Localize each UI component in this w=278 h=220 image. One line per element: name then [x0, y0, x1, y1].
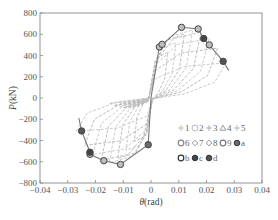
legend-label: c — [199, 153, 203, 163]
skeleton-line — [151, 27, 229, 98]
legend-label: 4 — [227, 123, 232, 133]
data-point-marker — [206, 42, 212, 48]
data-point-marker — [195, 26, 201, 32]
x-tick-label: 0 — [149, 185, 154, 195]
diamond-marker-icon — [206, 140, 212, 146]
circle-marker-icon — [178, 140, 184, 146]
y-axis-ticks: 8006004002000−200−400−600−800 — [18, 8, 43, 188]
legend-label: 3 — [213, 123, 218, 133]
y-tick-label: 400 — [24, 51, 38, 61]
data-point-marker — [78, 128, 84, 134]
filled-circle-marker-icon — [206, 155, 212, 161]
circle-marker-icon — [192, 125, 198, 131]
legend-label: d — [213, 153, 218, 163]
y-axis-title: P(kN) — [8, 86, 19, 111]
legend: 123456789abcd — [178, 123, 246, 163]
y-tick-label: −800 — [18, 178, 37, 188]
y-tick-label: 0 — [33, 93, 38, 103]
y-tick-label: −600 — [18, 157, 37, 167]
x-tick-label: −0.02 — [85, 185, 106, 195]
filled-circle-marker-icon — [234, 140, 240, 146]
legend-label: a — [241, 138, 245, 148]
legend-label: 6 — [185, 138, 190, 148]
legend-label: 5 — [241, 123, 246, 133]
filled-circle-marker-icon — [192, 155, 198, 161]
triangle-marker-icon — [220, 125, 226, 130]
data-point-marker — [159, 41, 165, 47]
data-point-marker — [178, 24, 184, 30]
plus-marker-icon — [234, 125, 240, 131]
data-point-marker — [220, 58, 226, 64]
legend-label: b — [185, 153, 190, 163]
diamond-marker-icon — [192, 140, 198, 146]
x-tick-label: −0.01 — [113, 185, 134, 195]
hysteresis-chart: −0.04−0.03−0.02−0.0100.010.020.030.04 80… — [0, 0, 278, 220]
x-tick-label: 0.01 — [171, 185, 187, 195]
y-tick-label: 600 — [24, 29, 38, 39]
x-axis-title: θ(rad) — [139, 197, 162, 208]
plus-marker-icon — [206, 125, 212, 131]
x-tick-label: 0.03 — [226, 185, 242, 195]
x-tick-label: −0.03 — [57, 185, 78, 195]
x-tick-label: 0.04 — [254, 185, 270, 195]
legend-label: 9 — [227, 138, 232, 148]
y-tick-label: 200 — [24, 72, 38, 82]
data-point-marker — [101, 157, 107, 163]
y-tick-label: −200 — [18, 114, 37, 124]
circle-marker-icon — [178, 155, 184, 161]
circle-marker-icon — [220, 140, 226, 146]
y-tick-label: −400 — [18, 136, 37, 146]
legend-label: 2 — [199, 123, 204, 133]
peak-markers — [78, 24, 226, 167]
legend-label: 8 — [213, 138, 218, 148]
plus-marker-icon — [178, 125, 184, 131]
y-axis-unit: (kN) — [8, 86, 19, 104]
data-point-marker — [201, 35, 207, 41]
legend-label: 1 — [185, 123, 190, 133]
data-point-marker — [117, 161, 123, 167]
skeleton-curve — [79, 27, 229, 164]
data-point-marker — [87, 149, 93, 155]
data-point-marker — [145, 142, 151, 148]
legend-label: 7 — [199, 138, 204, 148]
x-axis-unit: (rad) — [144, 197, 162, 208]
x-axis-ticks: −0.04−0.03−0.02−0.0100.010.020.030.04 — [30, 180, 271, 195]
x-tick-label: 0.02 — [199, 185, 215, 195]
y-tick-label: 800 — [24, 8, 38, 18]
